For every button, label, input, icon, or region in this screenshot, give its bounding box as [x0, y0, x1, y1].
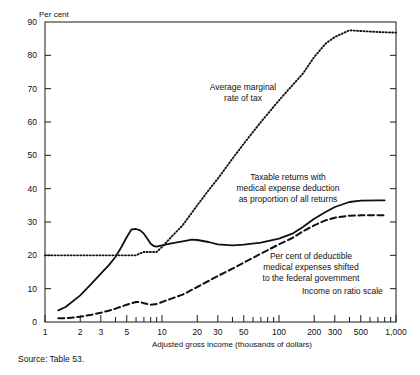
annotation-ratio-scale-note: Income on ratio scale	[302, 286, 383, 296]
x-axis-title: Adjusted gross income (thousands of doll…	[152, 340, 312, 349]
x-tick-label: 10	[157, 327, 167, 337]
y-tick-label: 30	[28, 217, 38, 227]
x-tick-label: 3	[98, 327, 103, 337]
y-tick-label: 70	[28, 84, 38, 94]
x-tick-label: 2	[78, 327, 83, 337]
x-tick-label: 20	[192, 327, 202, 337]
y-tick-label: 20	[28, 250, 38, 260]
series-average-marginal-rate-of-tax	[45, 30, 396, 255]
medical-expense-deduction-chart: 0102030405060708090123510203050100200300…	[0, 0, 420, 375]
y-axis-unit-label: Per cent	[39, 10, 70, 19]
y-tick-label: 40	[28, 184, 38, 194]
annotation-taxable-returns: medical expense deduction	[236, 183, 339, 193]
x-tick-label: 100	[272, 327, 286, 337]
x-tick-label: 50	[239, 327, 249, 337]
y-tick-label: 50	[28, 150, 38, 160]
annotation-expenses-shifted: to the federal government	[263, 273, 361, 283]
x-tick-label: 300	[328, 327, 342, 337]
x-tick-label: 5	[124, 327, 129, 337]
annotation-average-marginal-rate: Average marginal	[210, 82, 277, 92]
chart-svg: 0102030405060708090123510203050100200300…	[0, 0, 420, 375]
y-tick-label: 80	[28, 50, 38, 60]
x-tick-label: 200	[307, 327, 321, 337]
y-tick-label: 90	[28, 17, 38, 27]
y-tick-label: 10	[28, 284, 38, 294]
x-tick-label: 500	[354, 327, 368, 337]
annotation-expenses-shifted: medical expenses shifted	[263, 262, 359, 272]
annotation-expenses-shifted: Per cent of deductible	[270, 251, 352, 261]
annotation-taxable-returns: as proportion of all returns	[239, 194, 338, 204]
x-tick-label: 1,000	[385, 327, 407, 337]
x-tick-label: 1	[43, 327, 48, 337]
y-tick-label: 60	[28, 117, 38, 127]
annotation-taxable-returns: Taxable returns with	[250, 172, 326, 182]
source-note: Source: Table 53.	[18, 354, 84, 364]
y-tick-label: 0	[32, 317, 37, 327]
x-tick-label: 30	[213, 327, 223, 337]
annotation-average-marginal-rate: rate of tax	[224, 93, 263, 103]
